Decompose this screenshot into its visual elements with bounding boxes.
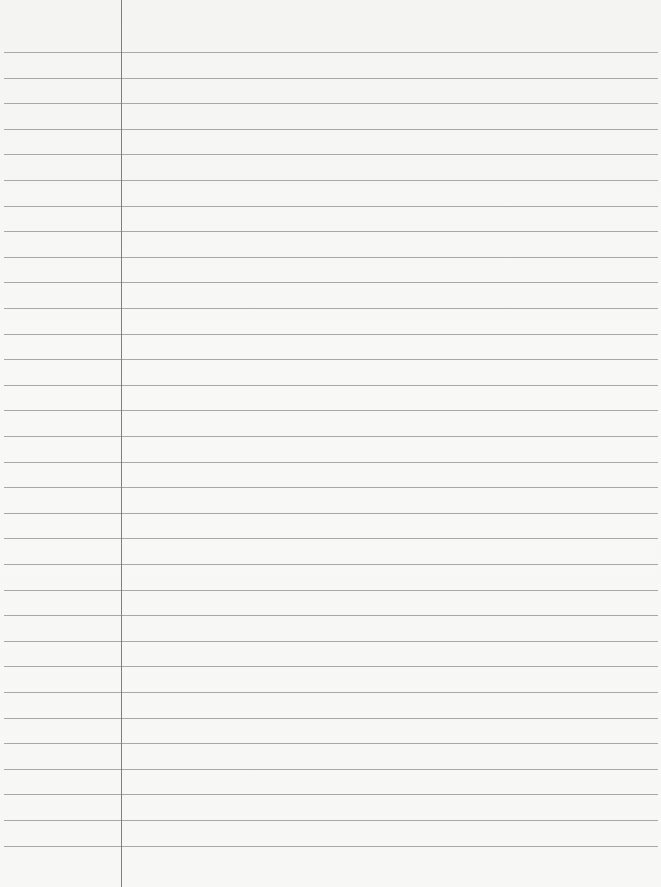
ruled-line	[4, 129, 658, 130]
ruled-line	[4, 846, 658, 847]
ruled-line	[4, 666, 658, 667]
ruled-line	[4, 206, 658, 207]
margin-line	[121, 0, 122, 887]
ruled-line	[4, 410, 658, 411]
ruled-line	[4, 692, 658, 693]
ruled-line	[4, 769, 658, 770]
ruled-line	[4, 564, 658, 565]
ruled-line	[4, 257, 658, 258]
ruled-line	[4, 462, 658, 463]
ruled-line	[4, 718, 658, 719]
ruled-line	[4, 308, 658, 309]
lined-paper	[0, 0, 661, 887]
ruled-line	[4, 154, 658, 155]
ruled-line	[4, 436, 658, 437]
ruled-line	[4, 615, 658, 616]
ruled-line	[4, 231, 658, 232]
ruled-line	[4, 103, 658, 104]
ruled-line	[4, 334, 658, 335]
ruled-line	[4, 538, 658, 539]
ruled-line	[4, 641, 658, 642]
ruled-line	[4, 52, 658, 53]
ruled-line	[4, 78, 658, 79]
ruled-line	[4, 180, 658, 181]
ruled-line	[4, 487, 658, 488]
ruled-line	[4, 359, 658, 360]
ruled-line	[4, 820, 658, 821]
ruled-line	[4, 282, 658, 283]
ruled-line	[4, 794, 658, 795]
ruled-line	[4, 590, 658, 591]
ruled-line	[4, 743, 658, 744]
ruled-line	[4, 385, 658, 386]
ruled-line	[4, 513, 658, 514]
